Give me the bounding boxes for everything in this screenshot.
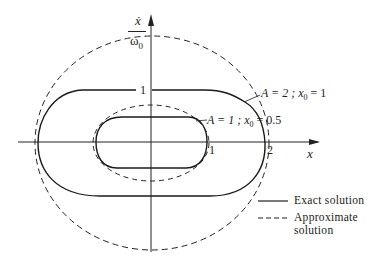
legend-exact-label: Exact solution [294,194,364,206]
curve-label-inner: A = 1 ; x0 = 0.5 [207,114,281,129]
legend-exact: Exact solution [294,194,364,206]
curve-label-outer-text: A = 2 ; x [261,86,304,100]
exact-curve-outer [38,90,265,196]
omega-subscript: 0 [139,41,144,51]
curve-label-outer: A = 2 ; x0 = 1 [261,87,326,102]
x-axis-arrow-icon [309,139,320,145]
y-axis-arrow-icon [148,14,154,26]
approx-curve-outer [35,36,269,250]
leader-line-outer [244,95,260,102]
x-tick-1: 1 [209,144,215,156]
curve-label-inner-text: A = 1 ; x [207,113,250,127]
legend-approx-line2: solution [294,224,333,236]
y-tick-1: 1 [138,84,148,96]
legend-approx: Approximate [294,211,358,223]
legend-approx-label-line2: solution [294,224,333,236]
x-axis-label: x [307,147,313,160]
y-axis-label-numerator: ẋ [135,14,141,27]
curve-label-inner-value: = 0.5 [254,113,282,127]
x-tick-2: 2 [267,144,273,156]
omega-symbol: ω [130,33,139,48]
curve-label-outer-value: = 1 [308,86,327,100]
y-axis-label-denominator: ω0 [130,34,143,51]
legend-approx-label-line1: Approximate [294,211,358,223]
y-axis-label-fraction-bar [128,31,146,32]
